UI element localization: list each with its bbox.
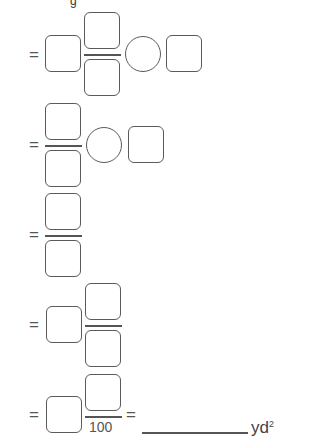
fraction-bar (45, 235, 82, 237)
numerator-box[interactable] (45, 193, 81, 230)
operator-circle[interactable] (86, 127, 122, 163)
equals-sign: = (29, 226, 39, 243)
fraction-bar (45, 145, 82, 147)
fraction-bar (85, 325, 122, 327)
whole-number-box[interactable] (46, 396, 82, 433)
denominator-100: 100 (89, 420, 112, 434)
unit-exponent: 2 (269, 419, 274, 429)
cropped-heading-fragment: g (70, 0, 77, 8)
whole-number-box[interactable] (45, 35, 81, 72)
fraction-bar (84, 54, 121, 56)
equals-sign: = (29, 136, 39, 153)
fraction-bar (85, 416, 122, 418)
numerator-box[interactable] (85, 374, 121, 411)
equals-sign: = (29, 46, 39, 63)
denominator-box[interactable] (45, 240, 81, 277)
whole-number-box[interactable] (46, 306, 82, 343)
denominator-box[interactable] (84, 59, 120, 96)
numerator-box[interactable] (84, 12, 120, 49)
answer-blank[interactable] (142, 432, 248, 434)
numerator-box[interactable] (85, 283, 121, 320)
equals-sign: = (29, 316, 39, 333)
equals-sign: = (29, 406, 39, 423)
operator-circle[interactable] (125, 36, 161, 72)
numerator-box[interactable] (45, 103, 81, 140)
unit-label: yd2 (251, 419, 274, 436)
operand-box[interactable] (166, 35, 202, 72)
unit-text: yd (251, 418, 269, 437)
equals-sign-2: = (126, 406, 136, 423)
operand-box[interactable] (128, 126, 164, 163)
denominator-box[interactable] (45, 150, 81, 187)
denominator-box[interactable] (85, 330, 121, 367)
